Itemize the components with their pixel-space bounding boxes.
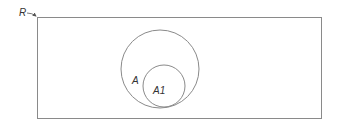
set-a-circle: [121, 30, 199, 108]
set-a-label: A: [131, 75, 139, 86]
venn-diagram: R A A1: [0, 0, 338, 121]
set-a1-label: A1: [152, 85, 165, 96]
universe-label: R: [19, 7, 26, 18]
universe-pointer-arrow: [27, 13, 36, 16]
